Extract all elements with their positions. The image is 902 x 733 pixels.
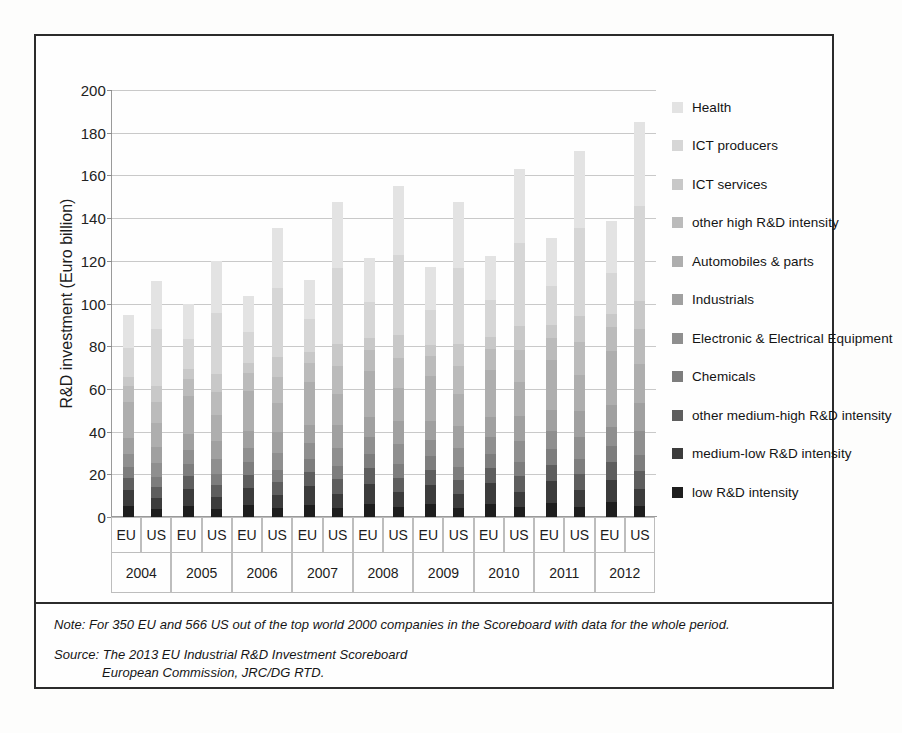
bar-segment bbox=[123, 348, 134, 376]
legend-item: Electronic & Electrical Equipment bbox=[672, 331, 893, 345]
bar-segment bbox=[546, 338, 557, 360]
bar-segment bbox=[514, 326, 525, 350]
y-axis-tick-labels: 020406080100120140160180200 bbox=[46, 90, 106, 517]
bar-segment bbox=[393, 388, 404, 421]
x-axis-labels: EUUS2004EUUS2005EUUS2006EUUS2007EUUS2008… bbox=[111, 517, 657, 593]
bar-segment bbox=[243, 373, 254, 391]
bar-segment bbox=[546, 410, 557, 431]
x-axis-region-label: US bbox=[504, 517, 534, 553]
bar-segment bbox=[606, 480, 617, 503]
bar-segment bbox=[634, 489, 645, 506]
bar-segment bbox=[332, 366, 343, 394]
bar-segment bbox=[546, 481, 557, 503]
legend-swatch-icon bbox=[672, 217, 683, 228]
bar-2007-eu bbox=[304, 280, 315, 517]
x-axis-region-label: EU bbox=[292, 517, 322, 553]
bar-2011-eu bbox=[546, 238, 557, 517]
bar-segment bbox=[211, 459, 222, 474]
x-axis-region-label: US bbox=[443, 517, 473, 553]
bar-segment bbox=[183, 476, 194, 489]
bar-2007-us bbox=[332, 202, 343, 517]
bar-segment bbox=[183, 450, 194, 464]
bar-segment bbox=[243, 431, 254, 448]
legend-item-label: other high R&D intensity bbox=[692, 215, 839, 230]
bar-segment bbox=[546, 325, 557, 338]
bar-segment bbox=[574, 437, 585, 459]
bar-segment bbox=[151, 447, 162, 464]
bar-segment bbox=[634, 122, 645, 206]
bar-segment bbox=[634, 364, 645, 403]
legend-item-label: Industrials bbox=[692, 292, 754, 307]
note-text: For 350 EU and 566 US out of the top wor… bbox=[89, 617, 730, 632]
bar-segment bbox=[364, 504, 375, 517]
bar-segment bbox=[211, 374, 222, 392]
x-axis-region-label: US bbox=[564, 517, 594, 553]
bar-segment bbox=[393, 421, 404, 444]
y-axis-tick-label: 80 bbox=[89, 338, 106, 355]
x-axis-region-label: EU bbox=[111, 517, 141, 553]
bar-segment bbox=[485, 504, 496, 517]
bar-segment bbox=[183, 379, 194, 396]
bar-segment bbox=[151, 463, 162, 477]
bar-segment bbox=[546, 431, 557, 449]
bar-segment bbox=[546, 503, 557, 517]
legend-item: low R&D intensity bbox=[672, 485, 799, 499]
bar-segment bbox=[123, 386, 134, 402]
bar-segment bbox=[634, 403, 645, 431]
y-axis-tick bbox=[107, 389, 112, 390]
bar-segment bbox=[272, 508, 283, 517]
bar-segment bbox=[425, 356, 436, 376]
bar-segment bbox=[393, 255, 404, 334]
bar-segment bbox=[606, 273, 617, 314]
bar-segment bbox=[183, 434, 194, 450]
bar-segment bbox=[425, 345, 436, 356]
bar-segment bbox=[393, 478, 404, 493]
bar-segment bbox=[634, 206, 645, 301]
bar-segment bbox=[514, 350, 525, 381]
bar-2008-eu bbox=[364, 258, 375, 517]
bar-segment bbox=[243, 296, 254, 331]
bar-segment bbox=[425, 267, 436, 310]
bar-segment bbox=[514, 476, 525, 492]
bar-segment bbox=[304, 319, 315, 353]
y-axis-tick-label: 0 bbox=[98, 509, 106, 526]
bar-segment bbox=[453, 344, 464, 366]
bar-segment bbox=[574, 228, 585, 316]
bar-2009-us bbox=[453, 202, 464, 517]
bar-segment bbox=[453, 508, 464, 517]
bar-segment bbox=[123, 438, 134, 453]
bar-segment bbox=[272, 377, 283, 403]
bar-segment bbox=[211, 509, 222, 517]
bar-segment bbox=[183, 506, 194, 517]
bar-segment bbox=[272, 482, 283, 495]
page-background: R&D investment (Euro billion) 0204060801… bbox=[0, 0, 902, 733]
bar-segment bbox=[304, 280, 315, 318]
bar-segment bbox=[485, 483, 496, 503]
y-axis-tick-label: 160 bbox=[81, 167, 106, 184]
legend-item-label: ICT services bbox=[692, 177, 767, 192]
bar-segment bbox=[304, 382, 315, 425]
bar-segment bbox=[211, 313, 222, 374]
bar-2008-us bbox=[393, 186, 404, 517]
bar-segment bbox=[304, 363, 315, 382]
legend-swatch-icon bbox=[672, 140, 683, 151]
bar-segment bbox=[332, 479, 343, 493]
bar-segment bbox=[574, 459, 585, 474]
x-axis-region-label: US bbox=[323, 517, 353, 553]
bar-segment bbox=[243, 363, 254, 373]
bar-segment bbox=[606, 221, 617, 272]
bar-segment bbox=[272, 495, 283, 508]
y-axis-tick-label: 180 bbox=[81, 124, 106, 141]
x-axis-year-label: 2011 bbox=[534, 553, 594, 593]
bar-segment bbox=[514, 169, 525, 242]
bar-segment bbox=[151, 509, 162, 517]
bar-segment bbox=[211, 474, 222, 485]
bar-segment bbox=[304, 486, 315, 505]
bar-segment bbox=[574, 151, 585, 228]
footnote-panel: Note: For 350 EU and 566 US out of the t… bbox=[36, 604, 832, 687]
legend-swatch-icon bbox=[672, 179, 683, 190]
bar-segment bbox=[485, 256, 496, 301]
bar-segment bbox=[606, 405, 617, 427]
bar-segment bbox=[425, 376, 436, 421]
bar-segment bbox=[485, 300, 496, 337]
